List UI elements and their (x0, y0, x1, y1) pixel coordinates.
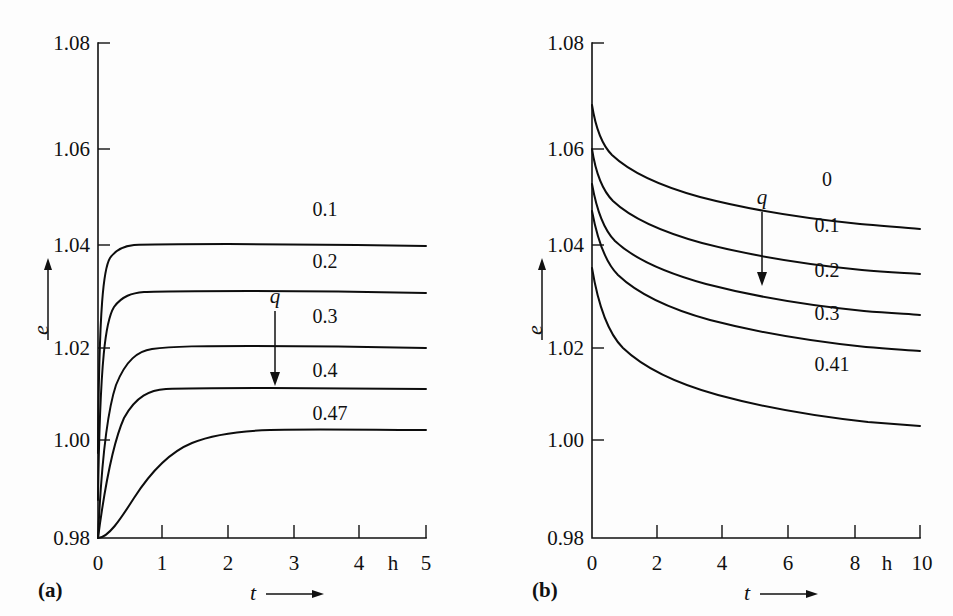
figure-container: 1.08 1.06 1.04 1.02 1.00 0.98 0 1 2 3 4 … (0, 0, 953, 616)
panel-a-xtick-0: 0 (93, 551, 104, 575)
panel-b-curve-label-0: 0 (822, 168, 832, 190)
panel-b-x-axis-arrow (760, 590, 818, 598)
panel-a-xtick-3: 3 (289, 551, 300, 575)
panel-b-curve-label-0.1: 0.1 (815, 214, 840, 236)
panel-b-x-unit: h (882, 551, 893, 575)
panel-a-ytick-0.98: 0.98 (53, 526, 90, 550)
panel-b-curve-label-0.41: 0.41 (815, 353, 850, 375)
panel-a-curve-0.47 (98, 430, 426, 538)
panel-b-q-arrow-icon (757, 212, 767, 286)
panel-a-curve-0.2 (98, 291, 426, 500)
panel-a-curve-label-0.4: 0.4 (313, 359, 338, 381)
panel-a-curve-label-0.3: 0.3 (313, 305, 338, 327)
panel-b-xtick-6: 6 (783, 551, 794, 575)
panel-a-q-label: q (270, 284, 281, 308)
panel-b-y-axis-label: e (522, 325, 547, 335)
panel-a-curve-0.1 (98, 244, 426, 453)
panel-b-q-label: q (757, 185, 768, 209)
panel-a-x-unit: h (388, 551, 399, 575)
panel-a-caption: (a) (38, 578, 63, 602)
panel-a-xtick-1: 1 (157, 551, 168, 575)
panel-b-ytick-1.00: 1.00 (547, 428, 584, 452)
panel-b-curve-label-0.3: 0.3 (815, 302, 840, 324)
panel-a-y-axis-label: e (28, 325, 53, 335)
panel-b-curve-0.3 (592, 211, 920, 351)
panel-a-ytick-1.02: 1.02 (53, 336, 90, 360)
panel-a-ytick-1.04: 1.04 (53, 233, 90, 257)
panel-b-ytick-1.08: 1.08 (547, 31, 584, 55)
panel-b-plot: 1.08 1.06 1.04 1.02 1.00 0.98 0 2 4 6 8 … (470, 0, 953, 616)
panel-b-curve-0.1 (592, 149, 920, 274)
panel-b-xtick-10: 10 (912, 551, 933, 575)
panel-b-ytick-1.02: 1.02 (547, 336, 584, 360)
panel-b-xtick-0: 0 (587, 551, 598, 575)
panel-a-curve-label-0.47: 0.47 (313, 402, 348, 424)
panel-a-x-ticks (162, 525, 426, 538)
panel-b-ytick-1.06: 1.06 (547, 137, 584, 161)
panel-b: 1.08 1.06 1.04 1.02 1.00 0.98 0 2 4 6 8 … (470, 0, 953, 616)
panel-a-xtick-4: 4 (354, 551, 365, 575)
panel-a-curve-0.3 (98, 346, 426, 538)
panel-b-x-axis-label: t (744, 580, 751, 605)
panel-b-xtick-4: 4 (717, 551, 728, 575)
panel-a-xtick-2: 2 (223, 551, 234, 575)
panel-a: 1.08 1.06 1.04 1.02 1.00 0.98 0 1 2 3 4 … (0, 0, 478, 616)
panel-a-plot: 1.08 1.06 1.04 1.02 1.00 0.98 0 1 2 3 4 … (0, 0, 478, 616)
panel-a-x-axis-arrow (266, 590, 324, 598)
panel-a-xtick-5: 5 (421, 551, 432, 575)
panel-b-ytick-1.04: 1.04 (547, 233, 584, 257)
panel-a-curve-label-0.1: 0.1 (313, 198, 338, 220)
panel-a-curve-label-0.2: 0.2 (313, 250, 338, 272)
panel-a-ytick-1.08: 1.08 (53, 31, 90, 55)
panel-b-curve-label-0.2: 0.2 (815, 259, 840, 281)
panel-b-caption: (b) (532, 578, 558, 602)
panel-a-curve-0.4 (98, 388, 426, 538)
panel-b-ytick-0.98: 0.98 (547, 526, 584, 550)
panel-a-q-arrow-icon (270, 311, 280, 386)
panel-b-xtick-2: 2 (652, 551, 663, 575)
panel-a-ytick-1.06: 1.06 (53, 137, 90, 161)
panel-b-y-ticks (592, 43, 604, 440)
panel-b-curve-0 (592, 105, 920, 229)
panel-b-x-ticks (657, 525, 920, 538)
panel-b-axes (592, 43, 920, 538)
panel-a-x-axis-label: t (250, 580, 257, 605)
panel-a-ytick-1.00: 1.00 (53, 428, 90, 452)
panel-b-xtick-8: 8 (850, 551, 861, 575)
